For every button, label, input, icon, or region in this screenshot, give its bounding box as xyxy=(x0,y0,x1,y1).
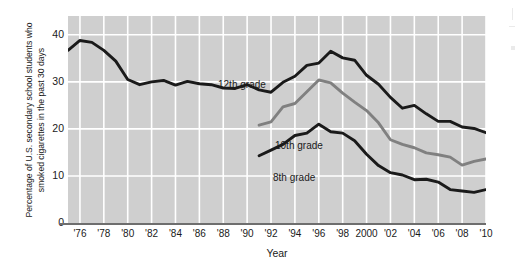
x-tick-label: '02 xyxy=(384,228,397,239)
cigarette-use-line-chart: Percentage of U.S. secondary school stud… xyxy=(0,0,527,280)
x-tick-label: '76 xyxy=(73,228,86,239)
y-tick-label: 20 xyxy=(42,123,64,134)
x-tick-label: '84 xyxy=(169,228,182,239)
y-tick-label: 30 xyxy=(42,76,64,87)
x-tick-label: '08 xyxy=(456,228,469,239)
x-tick-label: '06 xyxy=(432,228,445,239)
x-tick-label: '10 xyxy=(479,228,492,239)
x-tick-label: '82 xyxy=(145,228,158,239)
series-label-12th-grade: 12th grade xyxy=(218,79,266,90)
scan-artifact-mark-1 xyxy=(509,26,515,27)
data-series-lines xyxy=(68,40,486,192)
plot-area: 12th grade 10th grade 8th grade xyxy=(68,16,486,223)
y-axis-title-line1: Percentage of U.S. secondary school stud… xyxy=(24,23,34,218)
x-axis-line xyxy=(60,223,486,225)
y-axis-tick-labels: 010203040 xyxy=(40,16,64,223)
series-label-10th-grade: 10th grade xyxy=(275,140,323,151)
x-tick-label: '98 xyxy=(336,228,349,239)
x-tick-label: '92 xyxy=(264,228,277,239)
y-tick-label: 40 xyxy=(42,29,64,40)
scan-artifact-mark-3 xyxy=(512,8,513,20)
plot-svg xyxy=(68,16,486,223)
x-tick-label: '86 xyxy=(193,228,206,239)
x-axis-title: Year xyxy=(68,247,486,259)
vertical-gridlines xyxy=(80,16,486,223)
x-tick-label: 2000 xyxy=(355,228,377,239)
x-tick-label: '90 xyxy=(241,228,254,239)
x-tick-label: '80 xyxy=(121,228,134,239)
y-tick-label: 10 xyxy=(42,170,64,181)
x-tick-label: '78 xyxy=(97,228,110,239)
x-tick-label: '96 xyxy=(312,228,325,239)
x-tick-label: '04 xyxy=(408,228,421,239)
horizontal-gridlines xyxy=(68,35,486,176)
x-tick-label: '94 xyxy=(288,228,301,239)
series-label-8th-grade: 8th grade xyxy=(273,172,315,183)
x-axis-tick-labels: '76'78'80'82'84'86'88'90'92'94'96'982000… xyxy=(68,228,486,244)
x-tick-label: '88 xyxy=(217,228,230,239)
scan-artifact-mark-2 xyxy=(511,46,515,50)
